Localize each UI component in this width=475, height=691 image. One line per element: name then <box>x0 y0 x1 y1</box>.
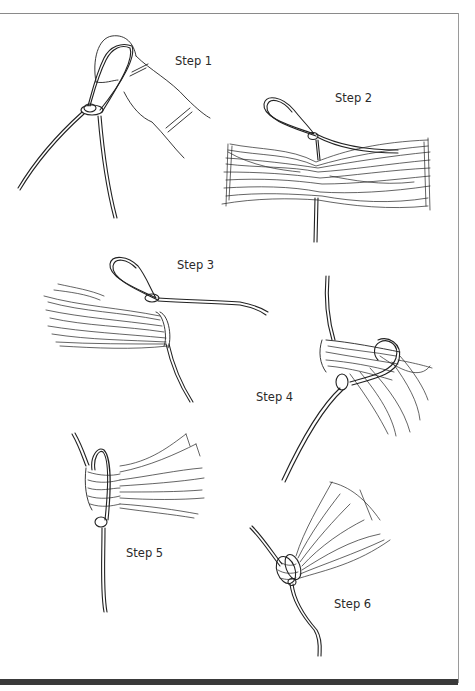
step-4-illustration <box>282 276 432 482</box>
step-2-illustration <box>222 98 430 242</box>
step-2-label: Step 2 <box>335 91 372 105</box>
step-3-illustration <box>44 257 268 402</box>
illustration-page: Step 1 Step 2 Step 3 Step 4 Step 5 Step … <box>0 0 475 691</box>
step-5-illustration <box>72 433 204 612</box>
step-3-label: Step 3 <box>177 258 214 272</box>
step-6-label: Step 6 <box>334 597 371 611</box>
step-5-label: Step 5 <box>126 546 163 560</box>
step-1-label: Step 1 <box>175 54 212 68</box>
tassel-steps-drawing <box>0 0 475 691</box>
step-4-label: Step 4 <box>256 390 293 404</box>
step-6-illustration <box>250 482 390 656</box>
